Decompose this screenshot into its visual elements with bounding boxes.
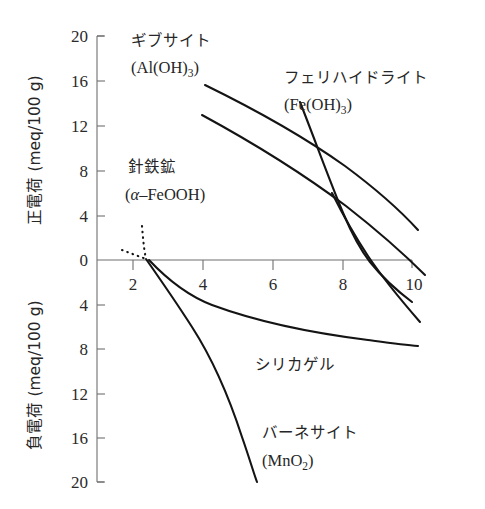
label-birnessite-name: バーネサイト bbox=[262, 424, 358, 442]
label-goethite-formula-alpha: α bbox=[131, 185, 140, 204]
label-goethite-formula-rest: –FeOOH) bbox=[138, 185, 205, 204]
label-gibbsite-formula: (Al(OH)3) bbox=[131, 58, 199, 79]
label-birnessite-formula-base: (MnO bbox=[262, 451, 302, 470]
curve-dotted-diagonal-near-origin bbox=[122, 250, 146, 259]
y-tick-label-zero: 0 bbox=[80, 251, 89, 270]
chart-figure: 20 16 12 8 4 0 4 8 12 16 20 2 4 6 8 10 bbox=[0, 0, 485, 509]
curve-dotted-vertical-near-origin bbox=[142, 226, 146, 259]
label-ferrihydrite-formula-tail: ) bbox=[347, 95, 353, 114]
x-tick-label-4: 4 bbox=[199, 275, 208, 294]
y-tick-label-pos-4: 4 bbox=[80, 207, 89, 226]
y-tick-label-pos-12: 12 bbox=[71, 117, 88, 136]
x-tick-label-2: 2 bbox=[129, 275, 138, 294]
y-axis-title-positive: 正電荷 (meq/100 g) bbox=[26, 75, 44, 224]
x-tick-label-8: 8 bbox=[339, 275, 348, 294]
label-gibbsite-name: ギブサイト bbox=[131, 31, 211, 50]
y-tick-label-neg-12: 12 bbox=[71, 385, 88, 404]
y-axis-title-negative: 負電荷 (meq/100 g) bbox=[26, 300, 44, 449]
label-goethite-name: 針鉄鉱 bbox=[128, 158, 176, 176]
y-tick-label-pos-16: 16 bbox=[71, 72, 88, 91]
y-axis-positive-ticks bbox=[97, 36, 105, 216]
x-axis-ticks bbox=[133, 260, 343, 270]
label-gibbsite-formula-tail: ) bbox=[194, 58, 200, 77]
y-tick-label-neg-20: 20 bbox=[71, 473, 88, 492]
label-silicagel-name: シリカゲル bbox=[255, 356, 335, 374]
curve-ferrihydrite bbox=[300, 102, 412, 302]
label-ferrihydrite-name: フェリハイドライト bbox=[284, 69, 428, 87]
label-goethite-formula: (α–FeOOH) bbox=[125, 185, 205, 204]
x-tick-label-6: 6 bbox=[269, 275, 278, 294]
y-tick-label-neg-8: 8 bbox=[80, 340, 89, 359]
curve-silicagel bbox=[149, 260, 418, 346]
label-birnessite-formula-tail: ) bbox=[308, 451, 314, 470]
y-tick-label-neg-16: 16 bbox=[71, 429, 88, 448]
label-birnessite-formula: (MnO2) bbox=[262, 451, 314, 472]
label-ferrihydrite-formula: (Fe(OH)3) bbox=[284, 95, 352, 116]
label-gibbsite-formula-base: (Al(OH) bbox=[131, 58, 188, 77]
y-tick-label-neg-4: 4 bbox=[80, 296, 89, 315]
x-tick-label-10: 10 bbox=[406, 275, 423, 294]
y-tick-label-pos-8: 8 bbox=[80, 162, 89, 181]
y-tick-label-pos-20: 20 bbox=[71, 27, 88, 46]
charge-vs-ph-chart: 20 16 12 8 4 0 4 8 12 16 20 2 4 6 8 10 bbox=[0, 0, 485, 509]
label-ferrihydrite-formula-base: (Fe(OH) bbox=[284, 95, 341, 114]
y-axis-negative-ticks bbox=[97, 305, 105, 482]
